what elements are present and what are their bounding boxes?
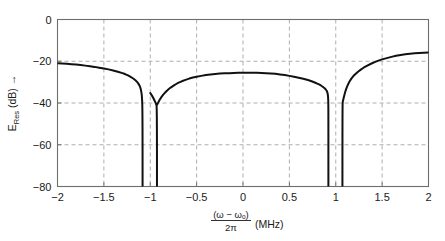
x-tick-label: −0.5 bbox=[186, 191, 208, 203]
x-tick-label: 1.5 bbox=[374, 191, 389, 203]
y-tick-label: −80 bbox=[33, 181, 52, 193]
x-tick-label: 0 bbox=[240, 191, 246, 203]
x-tick-label: 0.5 bbox=[282, 191, 297, 203]
chart-background bbox=[0, 0, 445, 241]
x-axis-title-unit: (MHz) bbox=[255, 218, 284, 230]
x-tick-label: 1 bbox=[333, 191, 339, 203]
x-axis-title-numerator: (ω − ωₒ) bbox=[213, 209, 249, 220]
x-tick-label: −2 bbox=[51, 191, 64, 203]
x-tick-label: −1.5 bbox=[93, 191, 115, 203]
y-tick-label: −40 bbox=[33, 97, 52, 109]
x-tick-label: −1 bbox=[144, 191, 157, 203]
y-tick-label: −20 bbox=[33, 55, 52, 67]
x-tick-label: 2 bbox=[425, 191, 431, 203]
x-axis-tick-labels: −2−1.5−1−0.500.511.52 bbox=[51, 191, 431, 203]
y-tick-label: 0 bbox=[45, 14, 51, 26]
resonator-response-chart: −2−1.5−1−0.500.511.52 0−20−40−60−80 (ω −… bbox=[0, 0, 445, 241]
x-axis-title-denominator: 2π bbox=[225, 222, 237, 233]
y-tick-label: −60 bbox=[33, 139, 52, 151]
